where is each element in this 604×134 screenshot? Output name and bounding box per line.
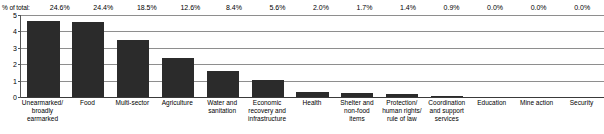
percent-label: 18.5%: [125, 4, 169, 11]
category-label-line: non-food: [335, 107, 378, 115]
category-label-line: rule of law: [380, 115, 423, 123]
percent-label: 0.9%: [430, 4, 474, 11]
category-label-line: and support: [425, 107, 468, 115]
bar-slot: [514, 15, 559, 97]
x-axis-category-label: Unearmarked/broadlyearmarked: [20, 99, 65, 134]
category-label-line: sanitation: [201, 107, 244, 115]
category-label-line: Mine action: [515, 99, 558, 107]
category-label-line: Multi-sector: [111, 99, 154, 107]
category-label-line: Economic: [246, 99, 289, 107]
bar: [117, 40, 149, 97]
percent-label: 1.4%: [386, 4, 430, 11]
bar-chart: % of total: 24.6%24.4%18.5%12.6%8.4%5.6%…: [0, 0, 604, 134]
category-label-line: Agriculture: [156, 99, 199, 107]
category-label-line: Shelter and: [335, 99, 378, 107]
x-axis-category-row: Unearmarked/broadlyearmarkedFoodMulti-se…: [0, 99, 604, 134]
percent-label: 24.6%: [38, 4, 82, 11]
bar: [431, 96, 463, 97]
percent-of-total-caption: % of total:: [0, 4, 38, 11]
percent-label: 0.0%: [517, 4, 561, 11]
percent-label: 12.6%: [169, 4, 213, 11]
x-axis-category-label: Multi-sector: [110, 99, 155, 134]
percent-label: 2.0%: [299, 4, 343, 11]
category-label-line: Education: [470, 99, 513, 107]
x-axis-category-label: Protection/human rights/rule of law: [379, 99, 424, 134]
bar: [162, 58, 194, 97]
x-axis-category-label: Mine action: [514, 99, 559, 134]
bar: [252, 80, 284, 97]
bar-slot: [380, 15, 425, 97]
bar-slot: [469, 15, 514, 97]
category-label-line: Protection/: [380, 99, 423, 107]
bar-group: [21, 15, 604, 97]
x-axis-category-label: Coordinationand supportservices: [424, 99, 469, 134]
y-axis-tick-label: 3: [13, 44, 17, 51]
x-axis-category-label: Education: [469, 99, 514, 134]
bar: [27, 21, 59, 97]
percent-label: 0.0%: [473, 4, 517, 11]
category-label-line: earmarked: [21, 115, 64, 123]
percent-label: 0.0%: [560, 4, 604, 11]
bar-slot: [559, 15, 604, 97]
bar-slot: [335, 15, 380, 97]
category-label-line: Health: [291, 99, 334, 107]
category-label-line: Coordination: [425, 99, 468, 107]
category-label-line: broadly: [21, 107, 64, 115]
x-axis-category-label: Security: [559, 99, 604, 134]
x-axis-category-label: Food: [65, 99, 110, 134]
y-axis: 012345: [0, 15, 20, 97]
percent-label: 1.7%: [343, 4, 387, 11]
bar-slot: [66, 15, 111, 97]
y-axis-tick-label: 1: [13, 77, 17, 84]
bar-slot: [111, 15, 156, 97]
bar: [72, 22, 104, 97]
axis-baseline: [21, 97, 604, 98]
category-label-line: human rights/: [380, 107, 423, 115]
percent-label: 5.6%: [256, 4, 300, 11]
category-label-line: services: [425, 115, 468, 123]
y-axis-tick-label: 2: [13, 61, 17, 68]
x-axis-category-label: Water andsanitation: [200, 99, 245, 134]
category-label-list: Unearmarked/broadlyearmarkedFoodMulti-se…: [20, 99, 604, 134]
x-axis-category-label: Health: [290, 99, 335, 134]
bar: [386, 94, 418, 97]
bar-slot: [156, 15, 201, 97]
bar: [207, 71, 239, 97]
bar: [341, 93, 373, 97]
category-label-line: recovery and: [246, 107, 289, 115]
plot-area: [20, 15, 604, 97]
y-axis-tick-mark: [18, 97, 21, 98]
category-gutter: [0, 99, 20, 134]
bar-slot: [425, 15, 470, 97]
percent-label: 24.4%: [82, 4, 126, 11]
bar-slot: [290, 15, 335, 97]
plot-wrapper: 012345: [0, 15, 604, 97]
y-axis-tick-label: 5: [13, 12, 17, 19]
category-label-line: Unearmarked/: [21, 99, 64, 107]
percent-label: 8.4%: [212, 4, 256, 11]
percent-of-total-row: % of total: 24.6%24.4%18.5%12.6%8.4%5.6%…: [0, 0, 604, 15]
bar-slot: [21, 15, 66, 97]
category-label-line: Food: [66, 99, 109, 107]
y-axis-tick-label: 4: [13, 28, 17, 35]
x-axis-category-label: Economicrecovery andinfrastructure: [245, 99, 290, 134]
category-label-line: items: [335, 115, 378, 123]
category-label-line: infrastructure: [246, 115, 289, 123]
bar-slot: [245, 15, 290, 97]
percent-label-list: 24.6%24.4%18.5%12.6%8.4%5.6%2.0%1.7%1.4%…: [38, 0, 604, 15]
category-label-line: Water and: [201, 99, 244, 107]
category-label-line: Security: [560, 99, 603, 107]
bar: [296, 92, 328, 97]
bar-slot: [200, 15, 245, 97]
x-axis-category-label: Agriculture: [155, 99, 200, 134]
x-axis-category-label: Shelter andnon-fooditems: [334, 99, 379, 134]
